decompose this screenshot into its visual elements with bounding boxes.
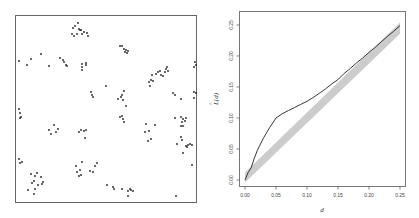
- x-axis: 0.000.050.100.150.200.25: [240, 187, 405, 199]
- y-axis-label: L(d) ^: [207, 92, 220, 106]
- data-point: [166, 66, 168, 68]
- x-axis-label: d: [320, 206, 324, 214]
- data-point: [187, 144, 189, 146]
- x-tick-label: 0.15: [333, 192, 343, 198]
- data-point: [81, 63, 83, 65]
- data-point: [90, 91, 92, 93]
- data-point: [81, 69, 83, 71]
- data-point: [48, 65, 50, 67]
- data-point: [182, 152, 184, 154]
- data-point: [126, 52, 128, 54]
- y-axis-label-arg: (d): [212, 92, 220, 101]
- data-point: [195, 92, 197, 94]
- data-point: [121, 45, 123, 47]
- data-point: [59, 57, 61, 59]
- data-point: [83, 31, 85, 33]
- data-point: [180, 125, 182, 127]
- data-point: [77, 22, 79, 24]
- data-point: [79, 29, 81, 31]
- x-tick-label: 0.10: [302, 192, 312, 198]
- data-point: [72, 27, 74, 29]
- data-point: [117, 98, 119, 100]
- data-point: [180, 116, 182, 118]
- data-point: [121, 188, 123, 190]
- data-point: [84, 137, 86, 139]
- data-point: [145, 123, 147, 125]
- data-point: [76, 33, 78, 35]
- data-point: [144, 131, 146, 133]
- data-point: [182, 118, 184, 120]
- data-point: [182, 125, 184, 127]
- data-point: [155, 73, 157, 75]
- data-point: [53, 124, 55, 126]
- data-point: [120, 96, 122, 98]
- y-axis: 0.000.050.100.150.200.25: [228, 20, 240, 185]
- data-point: [94, 165, 96, 167]
- data-point: [74, 25, 76, 27]
- data-point: [19, 117, 21, 119]
- data-point: [85, 129, 87, 131]
- point-pattern-points: [18, 22, 197, 197]
- data-point: [164, 71, 166, 73]
- l-function-panel: 0.000.050.100.150.200.25 0.000.050.100.1…: [207, 12, 406, 215]
- data-point: [193, 91, 195, 93]
- data-point: [181, 121, 183, 123]
- x-tick-label: 0.05: [271, 192, 281, 198]
- data-point: [71, 33, 73, 35]
- data-point: [30, 173, 32, 175]
- data-point: [125, 105, 127, 107]
- x-tick-label: 0.00: [240, 192, 250, 198]
- x-tick-label: 0.25: [395, 192, 405, 198]
- data-point: [152, 80, 154, 82]
- data-point: [27, 189, 29, 191]
- data-point: [18, 60, 20, 62]
- data-point: [33, 180, 35, 182]
- data-point: [75, 165, 77, 167]
- data-point: [119, 45, 121, 47]
- data-point: [123, 90, 125, 92]
- data-point: [78, 131, 80, 133]
- data-point: [130, 189, 132, 191]
- data-point: [91, 94, 93, 96]
- data-point: [167, 70, 169, 72]
- data-point: [85, 64, 87, 66]
- data-point: [180, 98, 182, 100]
- data-point: [194, 61, 196, 63]
- data-point: [34, 175, 36, 177]
- data-point: [73, 35, 75, 37]
- data-point: [154, 124, 156, 126]
- data-point: [180, 136, 182, 138]
- data-point: [174, 94, 176, 96]
- y-tick-label: 0.00: [228, 175, 234, 185]
- data-point: [62, 59, 64, 61]
- data-point: [37, 184, 39, 186]
- data-point: [30, 58, 32, 60]
- data-point: [19, 162, 21, 164]
- data-point: [127, 50, 129, 52]
- data-point: [172, 92, 174, 94]
- data-point: [122, 99, 124, 101]
- data-point: [18, 108, 20, 110]
- envelope-polygon: [245, 23, 400, 183]
- data-point: [18, 158, 20, 160]
- data-point: [81, 161, 83, 163]
- data-point: [185, 117, 187, 119]
- simulation-envelope-band: [245, 23, 400, 183]
- data-point: [31, 182, 33, 184]
- data-point: [106, 184, 108, 186]
- data-point: [132, 190, 134, 192]
- data-point: [195, 64, 197, 66]
- data-point: [34, 188, 36, 190]
- data-point: [86, 32, 88, 34]
- data-point: [149, 85, 151, 87]
- data-point: [181, 139, 183, 141]
- data-point: [112, 186, 114, 188]
- data-point: [185, 145, 187, 147]
- data-point: [113, 188, 115, 190]
- data-point: [165, 68, 167, 70]
- data-point: [55, 131, 57, 133]
- data-point: [148, 81, 150, 83]
- data-point: [175, 195, 177, 197]
- data-point: [42, 181, 44, 183]
- data-point: [63, 61, 65, 63]
